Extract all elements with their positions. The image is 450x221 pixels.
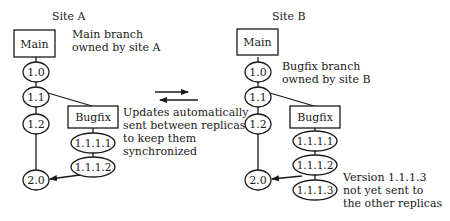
pending-note-line-1: Version 1.1.1.3 <box>342 171 427 184</box>
version-label: 2.0 <box>249 174 267 187</box>
sync-note-line-1: Updates automatically <box>123 106 249 119</box>
replication-diagram: Site A Main Main branch owned by site A … <box>0 0 450 221</box>
version-label: 1.0 <box>27 66 45 79</box>
version-label: 1.0 <box>249 66 267 79</box>
merge-arrow-a <box>50 175 80 179</box>
version-label: 1.1.1.1 <box>297 135 334 147</box>
bugfix-branch-label-a: Bugfix <box>75 111 112 124</box>
site-b-note-line-1: Bugfix branch <box>282 60 360 73</box>
site-b: Site B Main Bugfix branch owned by site … <box>237 10 442 210</box>
version-label: 2.0 <box>27 174 45 187</box>
sync-note-line-3: to keep them <box>123 132 197 145</box>
site-a-note-line-1: Main branch <box>72 28 143 41</box>
version-label: 1.2 <box>249 118 267 131</box>
main-branch-label-a: Main <box>20 38 48 51</box>
sync-note-line-2: sent between replicas <box>123 119 246 132</box>
edge-1-1-bugfix <box>270 93 314 106</box>
version-label: 1.1.1.2 <box>297 159 334 171</box>
site-b-title: Site B <box>272 10 306 23</box>
edge-1-1-bugfix <box>48 93 92 106</box>
site-b-note-line-2: owned by site B <box>282 73 371 86</box>
version-label: 1.1 <box>27 91 45 104</box>
version-label: 1.1.1.2 <box>75 161 112 173</box>
sync-note-line-4: synchronized <box>123 145 197 158</box>
merge-arrow-b <box>272 176 302 179</box>
site-a-note-line-2: owned by site A <box>72 41 162 54</box>
pending-note-line-2: not yet sent to <box>343 184 424 197</box>
version-label: 1.1.1.3 <box>297 184 334 196</box>
version-label: 1.1.1.1 <box>75 137 112 149</box>
site-a-title: Site A <box>52 10 86 23</box>
bugfix-branch-label-b: Bugfix <box>297 111 334 124</box>
main-branch-label-b: Main <box>243 36 271 49</box>
pending-note-line-3: the other replicas <box>343 197 442 210</box>
site-a: Site A Main Main branch owned by site A … <box>14 10 162 190</box>
sync-indicator: Updates automatically sent between repli… <box>123 92 249 158</box>
version-label: 1.2 <box>27 118 45 131</box>
version-label: 1.1 <box>249 91 267 104</box>
